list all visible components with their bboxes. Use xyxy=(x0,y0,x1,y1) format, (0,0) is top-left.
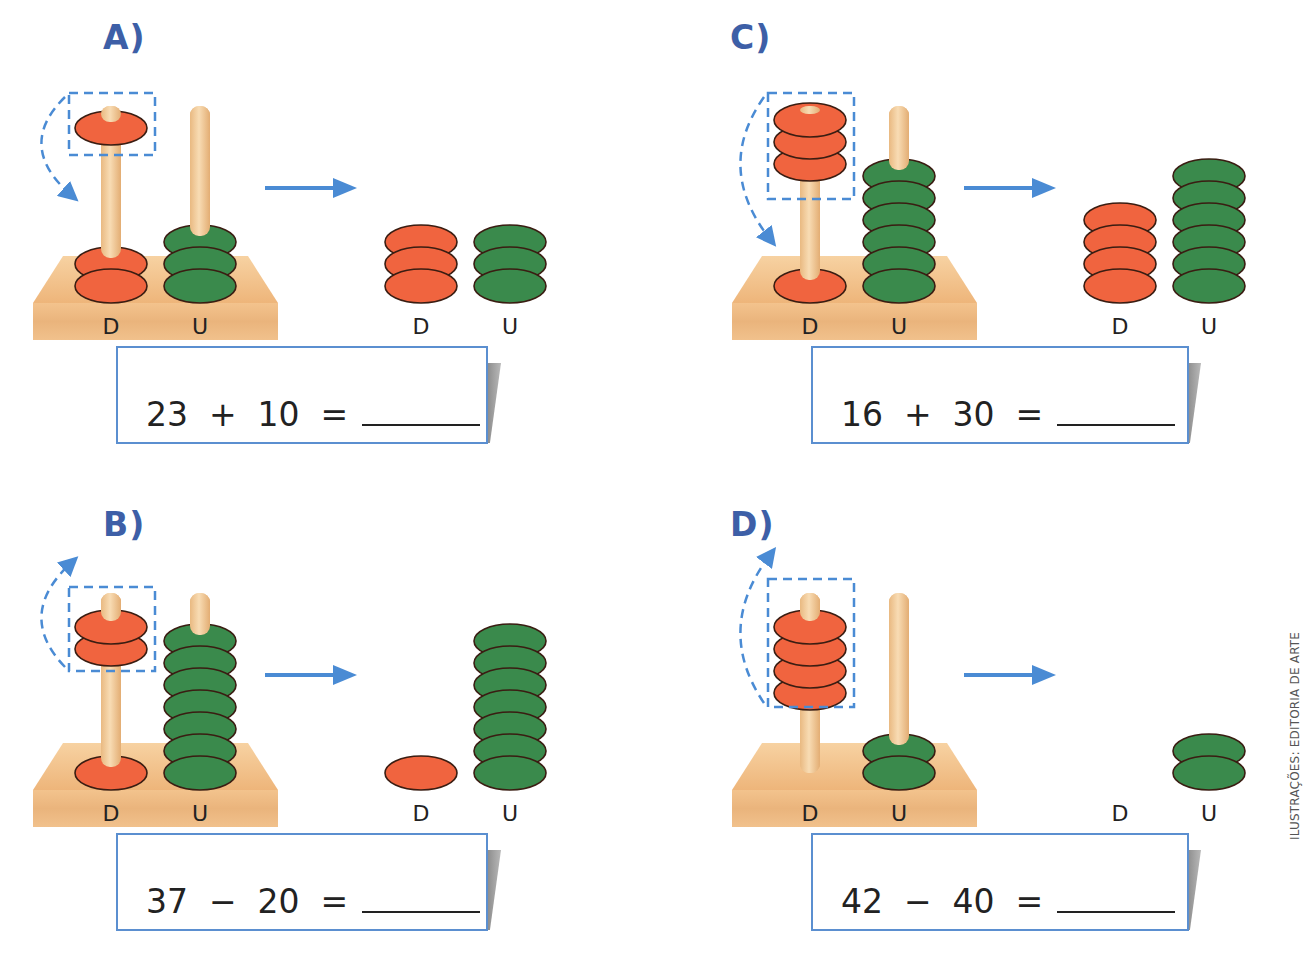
equation-text: 23 + 10 = xyxy=(146,395,348,434)
exercise-label: D) xyxy=(730,505,774,544)
abacus-base-top xyxy=(732,743,977,790)
answer-blank[interactable] xyxy=(362,423,480,426)
abacus-base-top xyxy=(343,743,588,790)
moving-tens-beads xyxy=(774,103,846,181)
units-rod-top xyxy=(889,593,909,745)
answer-blank[interactable] xyxy=(362,910,480,913)
equation-text: 37 − 20 = xyxy=(146,882,348,921)
box-shadow xyxy=(1188,850,1201,930)
units-rod-label: U xyxy=(1201,801,1217,826)
units-rod-label: U xyxy=(891,801,907,826)
abacus-base-top xyxy=(343,256,588,303)
illustration-credit: ILUSTRAÇÕES: EDITORIA DE ARTE xyxy=(1288,632,1302,840)
abacus-base-front xyxy=(732,303,977,340)
units-rod-label: U xyxy=(192,801,208,826)
abacus: DU xyxy=(343,106,588,340)
tens-rod-label: D xyxy=(103,314,120,339)
abacus-base-top xyxy=(732,256,977,303)
answer-box[interactable]: 42 − 40 = xyxy=(811,833,1189,931)
tens-rod-top xyxy=(411,106,431,236)
abacus-scene: DUDU xyxy=(700,58,1315,358)
answer-box[interactable]: 37 − 20 = xyxy=(116,833,488,931)
units-bead xyxy=(474,756,546,790)
abacus-scene: DUDU xyxy=(33,58,673,358)
moving-tens-beads xyxy=(774,593,846,710)
units-rod-label: U xyxy=(1201,314,1217,339)
abacus-base-front xyxy=(1042,303,1287,340)
units-bead xyxy=(863,269,935,303)
units-rod-label: U xyxy=(502,314,518,339)
abacus-base-top xyxy=(1042,256,1287,303)
tens-rod-label: D xyxy=(1112,314,1129,339)
abacus: DU xyxy=(1042,106,1287,340)
tens-bead xyxy=(385,269,457,303)
units-rod-top xyxy=(190,593,210,635)
moving-tens-beads xyxy=(75,106,147,145)
units-bead xyxy=(164,269,236,303)
move-down-arrow-icon xyxy=(41,97,71,195)
exercise-panel-a: A) DUDU 23 + 10 = xyxy=(33,18,673,488)
box-shadow xyxy=(488,850,501,930)
abacus-scene: DUDU xyxy=(33,545,673,845)
equation: 42 − 40 = xyxy=(841,882,1175,921)
tens-rod-tip xyxy=(101,593,121,621)
equation: 16 + 30 = xyxy=(841,395,1175,434)
tens-rod-label: D xyxy=(802,314,819,339)
arrowhead-icon xyxy=(333,665,357,685)
tens-rod-label: D xyxy=(802,801,819,826)
abacus-base-front xyxy=(343,303,588,340)
units-bead xyxy=(1173,756,1245,790)
exercise-panel-b: B) DUDU 37 − 20 = xyxy=(33,505,673,964)
tens-bead xyxy=(75,269,147,303)
answer-box[interactable]: 23 + 10 = xyxy=(116,346,488,444)
equation: 23 + 10 = xyxy=(146,395,480,434)
exercise-panel-d: D) DUDU 42 − 40 = xyxy=(730,505,1315,964)
answer-blank[interactable] xyxy=(1057,423,1175,426)
equation-text: 42 − 40 = xyxy=(841,882,1043,921)
units-rod-top xyxy=(500,106,520,236)
units-rod-top xyxy=(1199,593,1219,745)
tens-rod-label: D xyxy=(1112,801,1129,826)
move-up-arrow-icon xyxy=(41,563,71,667)
move-down-arrow-icon xyxy=(740,97,770,239)
arrowhead-icon xyxy=(333,178,357,198)
tens-rod-top xyxy=(1110,106,1130,214)
arrowhead-icon xyxy=(1032,178,1056,198)
equation: 37 − 20 = xyxy=(146,882,480,921)
tens-rod xyxy=(1110,593,1130,773)
tens-bead xyxy=(1084,269,1156,303)
units-rod-label: U xyxy=(192,314,208,339)
exercise-label: B) xyxy=(103,505,145,544)
tens-bead xyxy=(385,756,457,790)
units-rod-top xyxy=(889,106,909,170)
tens-rod-top xyxy=(411,593,431,767)
exercise-panel-c: C) DUDU 16 + 30 = xyxy=(730,18,1315,488)
tens-rod-label: D xyxy=(103,801,120,826)
tens-rod-tip xyxy=(101,106,121,122)
abacus-base-front xyxy=(1042,790,1287,827)
abacus: DU xyxy=(343,593,588,827)
units-rod-top xyxy=(190,106,210,236)
move-up-arrow-icon xyxy=(740,555,770,703)
exercise-label: A) xyxy=(103,18,146,57)
units-bead xyxy=(1173,269,1245,303)
box-shadow xyxy=(1188,363,1201,443)
tens-rod-label: D xyxy=(413,801,430,826)
abacus-base-front xyxy=(33,303,278,340)
tens-rod-top xyxy=(1110,593,1130,773)
abacus-base-front xyxy=(33,790,278,827)
units-bead xyxy=(164,756,236,790)
tens-rod xyxy=(411,593,431,773)
tens-rod-tip xyxy=(800,593,820,621)
moving-tens-beads xyxy=(75,593,147,666)
tens-rod-tip xyxy=(800,106,820,114)
arrowhead-icon xyxy=(1032,665,1056,685)
abacus-base-front xyxy=(732,790,977,827)
units-bead xyxy=(474,269,546,303)
answer-box[interactable]: 16 + 30 = xyxy=(811,346,1189,444)
abacus-base-top xyxy=(1042,743,1287,790)
abacus: DU xyxy=(1042,593,1287,827)
answer-blank[interactable] xyxy=(1057,910,1175,913)
abacus-base-top xyxy=(33,256,278,303)
units-rod-label: U xyxy=(891,314,907,339)
